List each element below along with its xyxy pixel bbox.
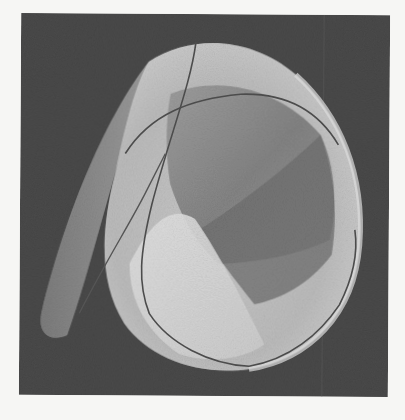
figure-frame — [19, 13, 390, 397]
page — [0, 0, 405, 420]
surface-figure — [19, 13, 390, 397]
